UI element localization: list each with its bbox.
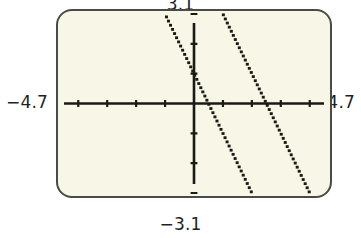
axes-group (64, 14, 324, 193)
plot-pixel (288, 149, 291, 152)
plot-pixel (179, 45, 182, 48)
plot-pixel (217, 124, 220, 127)
plot-pixel (191, 70, 194, 73)
plot-pixel (242, 174, 245, 177)
plot-pixel (300, 174, 303, 177)
plot-pixel (167, 20, 170, 23)
plot-pixel (215, 120, 218, 123)
plot-pixel (197, 82, 200, 85)
plot-pixel (272, 116, 275, 119)
plot-pixel (258, 88, 261, 91)
plot-pixel (238, 46, 241, 49)
plot-pixel (278, 129, 281, 132)
plot-pixel (254, 79, 257, 82)
plot-pixel (199, 86, 202, 89)
plot-pixel (236, 42, 239, 45)
plot-pixel (183, 53, 186, 56)
plot-pixel (171, 28, 174, 31)
plot-pixel (226, 22, 229, 25)
plot-pixel (274, 120, 277, 123)
plot-pixel (296, 166, 299, 169)
plot-pixel (264, 100, 267, 103)
plot-pixel (213, 115, 216, 118)
plot-pixel (304, 182, 307, 185)
plot-pixel (193, 74, 196, 77)
plot-pixel (226, 140, 229, 143)
plot-pixel (181, 49, 184, 52)
plot-pixel (286, 145, 289, 148)
calculator-figure: 3.1 −4.7 4.7 −3.1 (0, 0, 361, 238)
plot-pixel (232, 153, 235, 156)
plot-pixel (173, 32, 176, 35)
plot-pixel (276, 125, 279, 128)
plot-pixel (282, 137, 285, 140)
plot-pixel (230, 30, 233, 33)
plot-pixel (175, 36, 178, 39)
plot-pixel (207, 103, 210, 106)
plot-pixel (292, 158, 295, 161)
plot-pixel (205, 99, 208, 102)
plot-pixel (244, 178, 247, 181)
plot-pixel (228, 26, 231, 29)
plot-pixel (256, 83, 259, 86)
plot-pixel (246, 63, 249, 66)
plot-pixel (232, 34, 235, 37)
plot-pixel (280, 133, 283, 136)
plot-pixel (222, 132, 225, 135)
plot-pixel (240, 170, 243, 173)
plot-pixel (250, 190, 253, 193)
plot-pixel (298, 170, 301, 173)
plot-pixel (224, 18, 227, 21)
plot-pixel (189, 65, 192, 68)
plot-pixel (177, 41, 180, 44)
plot-pixel (252, 75, 255, 78)
plot-pixel (209, 107, 212, 110)
plot-pixel (250, 71, 253, 74)
plot-pixel (248, 186, 251, 189)
plot-pixel (306, 186, 309, 189)
calculator-screen (56, 9, 332, 198)
window-ymin-label: −3.1 (0, 214, 361, 234)
plot-pixel (294, 162, 297, 165)
plot-pixel (220, 128, 223, 131)
graph-plot (58, 11, 330, 196)
plot-pixel (224, 136, 227, 139)
plot-pixel (165, 16, 168, 19)
plot-pixel (230, 149, 233, 152)
plot-pixel (234, 38, 237, 41)
plot-pixel (240, 50, 243, 53)
window-xmin-label: −4.7 (6, 92, 48, 112)
plot-pixel (236, 161, 239, 164)
plot-pixel (228, 145, 231, 148)
plot-pixel (203, 95, 206, 98)
plot-pixel (187, 61, 190, 64)
plot-pixel (270, 112, 273, 115)
plot-pixel (268, 108, 271, 111)
plot-pixel (290, 153, 293, 156)
plot-pixel (201, 90, 204, 93)
plot-pixel (169, 24, 172, 27)
plot-pixel (211, 111, 214, 114)
plot-pixel (262, 96, 265, 99)
plot-pixel (234, 157, 237, 160)
plot-pixel (242, 55, 245, 58)
plot-pixel (185, 57, 188, 60)
plot-pixel (308, 190, 311, 193)
plot-pixel (222, 13, 225, 16)
plot-pixel (244, 59, 247, 62)
plot-pixel (248, 67, 251, 70)
plot-pixel (238, 165, 241, 168)
plot-pixel (260, 92, 263, 95)
plot-pixel (284, 141, 287, 144)
plot-pixel (302, 178, 305, 181)
plot-pixel (266, 104, 269, 107)
plot-pixel (195, 78, 198, 81)
plot-pixel (246, 182, 249, 185)
